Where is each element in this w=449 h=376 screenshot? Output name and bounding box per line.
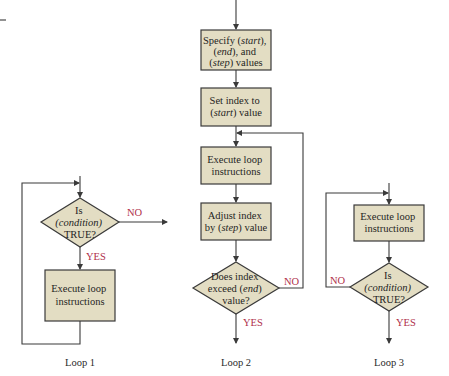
loop2-no-label: NO bbox=[284, 276, 300, 287]
loop1-no-label: NO bbox=[127, 207, 143, 218]
loop3-process-text: Execute loop instructions bbox=[360, 211, 418, 234]
loop2-execute-text: Execute loop instructions bbox=[207, 154, 265, 177]
loop2-yes-label: YES bbox=[243, 317, 263, 328]
loop1-caption: Loop 1 bbox=[65, 357, 95, 368]
loop1-flowchart: Is (condition) TRUE? NO YES Execute loop… bbox=[22, 176, 167, 368]
loop3-flowchart: Execute loop instructions Is (condition)… bbox=[326, 183, 428, 368]
loop3-yes-label: YES bbox=[396, 317, 416, 328]
loop3-caption: Loop 3 bbox=[374, 357, 404, 368]
loop2-set-index-text: Set index to (start) value bbox=[210, 95, 263, 119]
loop1-yes-label: YES bbox=[86, 251, 106, 262]
loop-flowcharts: Is (condition) TRUE? NO YES Execute loop… bbox=[0, 0, 449, 376]
loop3-no-label: NO bbox=[330, 275, 346, 286]
loop2-flowchart: Specify (start), (end), and (step) value… bbox=[193, 0, 303, 368]
loop2-caption: Loop 2 bbox=[221, 357, 251, 368]
loop2-adjust-text: Adjust index by (step) value bbox=[205, 210, 268, 234]
